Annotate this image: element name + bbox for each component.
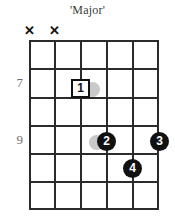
mute-marker-string-2: ✕ (48, 24, 61, 37)
fret-number-9: 9 (7, 133, 23, 147)
chord-diagram: 'Major' ✕ ✕ 7 9 1 2 3 4 (0, 0, 175, 224)
finger-marker-1: 1 (71, 79, 90, 98)
finger-marker-3: 3 (150, 132, 169, 151)
chord-title: 'Major' (0, 3, 175, 18)
mute-marker-string-1: ✕ (23, 24, 36, 37)
fret-number-7: 7 (7, 76, 23, 90)
finger-marker-2: 2 (97, 132, 116, 151)
fretboard-outline (29, 40, 159, 210)
finger-marker-4: 4 (123, 159, 142, 178)
fretboard-grid (29, 40, 159, 210)
